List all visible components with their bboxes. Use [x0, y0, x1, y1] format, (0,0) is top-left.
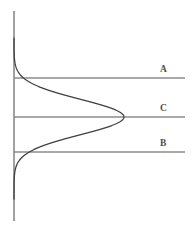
- reference-label-a: A: [160, 65, 167, 75]
- bell-curve-path: [14, 38, 124, 199]
- reference-label-b: B: [160, 139, 167, 149]
- reference-label-c: C: [160, 104, 167, 114]
- bell-curve-figure: A C B: [0, 0, 194, 229]
- figure-canvas: [0, 0, 194, 229]
